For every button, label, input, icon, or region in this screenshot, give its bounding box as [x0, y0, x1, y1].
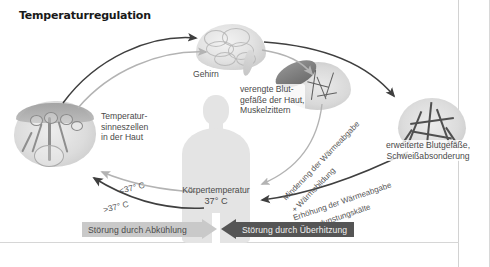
banner-cooling-label: Störung durch Abkühlung [82, 225, 193, 235]
label-dilated-vessels: erweiterte Blutgefäße, Schweißabsonderun… [371, 140, 485, 161]
banner-cooling-arrow-tip [202, 219, 217, 239]
arrow-brain-to-constricted [262, 50, 312, 74]
arrow-skin-to-brain-cold [63, 38, 196, 103]
banner-overheating-label: Störung durch Überhitzung [236, 225, 353, 235]
banner-overheating-arrow-tip [221, 219, 236, 239]
temperature-regulation-figure: Temperaturregulation [0, 0, 490, 267]
label-constricted-vessels: verengte Blut- gefäße der Haut, Muskelzi… [240, 84, 305, 116]
label-body-temperature-value: 37° C [174, 196, 258, 207]
label-body-temperature: Körpertemperatur [174, 185, 258, 196]
banner-cooling-disturbance: Störung durch Abkühlung [82, 222, 202, 237]
label-skin-sensors: Temperatur- sinneszellen in der Haut [101, 111, 148, 143]
label-brain: Gehirn [193, 69, 219, 80]
banner-overheating-disturbance: Störung durch Überhitzung [236, 222, 354, 237]
arrow-skin-to-brain-warm [78, 52, 206, 108]
